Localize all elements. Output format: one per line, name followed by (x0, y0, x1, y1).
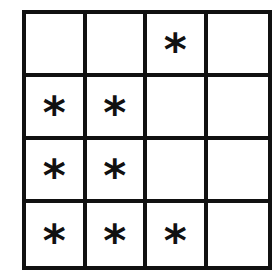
grid-cell-r1-c4 (208, 14, 269, 77)
grid-cell-r1-c2 (87, 14, 148, 77)
asterisk-grid: * * * * * * * * (22, 10, 272, 270)
asterisk-mark: * (43, 219, 66, 263)
grid-cell-r3-c1: * (26, 140, 87, 203)
grid-cell-r1-c1 (26, 14, 87, 77)
grid-cell-r3-c3 (147, 140, 208, 203)
grid-cell-r2-c3 (147, 77, 208, 140)
grid-cell-r1-c3: * (147, 14, 208, 77)
grid-cell-r4-c3: * (147, 203, 208, 266)
grid-cell-r3-c4 (208, 140, 269, 203)
grid-cell-r4-c1: * (26, 203, 87, 266)
asterisk-mark: * (103, 154, 126, 198)
grid-cell-r4-c4 (208, 203, 269, 266)
asterisk-mark: * (43, 154, 66, 198)
asterisk-mark: * (103, 219, 126, 263)
grid-cell-r3-c2: * (87, 140, 148, 203)
asterisk-mark: * (164, 28, 187, 72)
asterisk-mark: * (43, 91, 66, 135)
grid-cell-r2-c1: * (26, 77, 87, 140)
asterisk-mark: * (164, 219, 187, 263)
grid-cell-r4-c2: * (87, 203, 148, 266)
asterisk-mark: * (103, 91, 126, 135)
grid-cell-r2-c2: * (87, 77, 148, 140)
grid-cell-r2-c4 (208, 77, 269, 140)
